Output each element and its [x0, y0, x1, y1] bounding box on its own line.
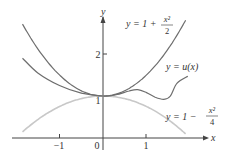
x-tick-label: −1: [54, 140, 65, 151]
x-axis-arrow-icon: [203, 136, 209, 141]
chart: −1 0 1 2 1 x y y = 1 + x² 2 y = u(x) y =…: [0, 0, 229, 155]
y-axis-arrow-icon: [101, 16, 106, 23]
series-lower-bound: [23, 96, 186, 134]
label-upper-num: x²: [163, 14, 171, 24]
label-u-fn: u(x): [182, 61, 199, 73]
label-upper: y = 1 + x² 2: [125, 14, 173, 36]
axes: [12, 16, 209, 150]
label-upper-lhs: y = 1 +: [125, 18, 156, 29]
svg-text:y = u(x): y = u(x): [165, 61, 199, 73]
label-lower-den: 4: [210, 117, 215, 127]
svg-text:y = 1 +: y = 1 +: [125, 18, 156, 29]
x-axis-label: x: [210, 132, 216, 143]
label-lower-lhs: y = 1 −: [165, 111, 196, 122]
series-u: [23, 58, 188, 99]
x-tick-label: 0: [95, 140, 100, 151]
x-tick-label: 1: [144, 140, 149, 151]
series-labels: y = 1 + x² 2 y = u(x) y = 1 − x² 4: [125, 14, 218, 127]
label-u: y = u(x): [165, 61, 199, 73]
series-lines: [23, 20, 188, 134]
series-upper-bound: [23, 20, 186, 96]
label-lower-num: x²: [208, 105, 216, 115]
y-axis-label: y: [100, 6, 106, 17]
y-tick-label: 2: [96, 49, 101, 60]
label-u-lhs: y =: [165, 61, 182, 72]
label-upper-den: 2: [165, 26, 169, 36]
svg-text:y = 1 −: y = 1 −: [165, 111, 196, 122]
